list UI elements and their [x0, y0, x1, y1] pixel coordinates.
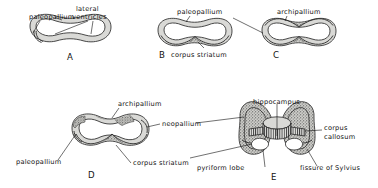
label-corpus-striatum-b: corpus striatum: [171, 51, 227, 59]
label-paleopallium-a: paleopallium: [29, 13, 74, 21]
panel-e-corpus-callosum: [249, 127, 263, 136]
label-pyriform-lobe-e: pyriform lobe: [197, 164, 244, 172]
panel-e-leader-pyriform-lobe: [263, 150, 265, 167]
panel-letter-e: E: [271, 172, 276, 182]
panel-e-pyriform-lobe-right: [285, 138, 302, 150]
label-corpus-callosum-line1: corpus: [324, 124, 348, 132]
label-fissure-of-sylvius-e: fissure of Sylvius: [300, 164, 360, 172]
label-corpus-callosum-line2: callosum: [324, 133, 355, 141]
label-paleopallium-b: paleopallium: [177, 8, 222, 16]
panel-d-leader-archipallium: [112, 108, 119, 118]
label-lateral-ventricles-line1: lateral: [76, 5, 99, 13]
panel-b: paleopallium corpus striatum B: [158, 8, 232, 61]
panel-e: hippocampus corpus callosum pyriform lob…: [190, 98, 360, 182]
label-lateral-ventricles-line2: ventricles: [72, 13, 107, 21]
panel-e-pyriform-lobe-left: [251, 138, 268, 150]
panel-e-leader-striatum-to-e: [190, 144, 252, 158]
panel-e-leader-neopallium-to-e: [196, 117, 244, 123]
forebrain-evolution-figure: paleopallium lateral ventricles A paleop…: [0, 0, 378, 188]
panel-d: archipallium neopallium paleopallium cor…: [16, 100, 201, 180]
panel-a: paleopallium lateral ventricles A: [29, 5, 111, 63]
panel-letter-c: C: [273, 50, 279, 60]
panel-letter-b: B: [159, 50, 165, 60]
label-archipallium-d: archipallium: [118, 100, 162, 108]
label-neopallium-d: neopallium: [162, 120, 201, 128]
panel-d-leader-corpus-striatum: [116, 145, 131, 163]
label-archipallium-c: archipallium: [277, 8, 321, 16]
panel-e-corpus-callosum-right: [291, 127, 305, 136]
panel-c-leader-paleopallium-long: [233, 18, 263, 33]
panel-letter-a: A: [67, 52, 73, 62]
label-paleopallium-d: paleopallium: [16, 158, 61, 166]
label-hippocampus-e: hippocampus: [253, 98, 300, 106]
panel-letter-d: D: [88, 170, 95, 180]
panel-c: archipallium C: [233, 8, 336, 61]
panel-d-leader-paleopallium: [58, 134, 76, 160]
label-corpus-striatum-d: corpus striatum: [133, 159, 189, 167]
